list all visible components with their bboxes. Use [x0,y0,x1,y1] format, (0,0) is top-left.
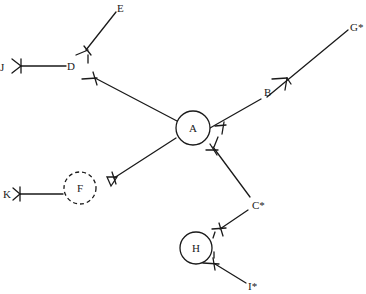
edge-a-b [210,99,261,128]
node-h-label: H [192,242,200,254]
node-h[interactable]: H [180,232,212,264]
node-f-label: F [77,182,83,194]
triangle-mark-f [107,172,117,186]
node-i-label[interactable]: I* [248,280,257,292]
node-d-label[interactable]: D [67,60,75,72]
edge-h-c [220,210,248,229]
edge-a-c [213,147,250,197]
node-a[interactable]: A [176,111,210,145]
edge-d-e [86,12,116,50]
node-j-label[interactable]: J [0,61,5,73]
edge-b-g [267,30,348,97]
node-c-label[interactable]: C* [252,199,265,211]
tick-mark-h-c [212,223,226,238]
node-a-label: A [189,122,197,134]
edge-h-i [215,264,246,283]
crowfoot-mark-k [13,187,20,201]
edge-a-f [114,138,176,178]
crowfoot-mark-j [12,59,21,73]
node-b-label[interactable]: B [264,86,271,98]
crowfoot-mark-b-g [272,78,291,90]
tick-mark-d-a [82,72,97,85]
node-e-label[interactable]: E [117,2,124,14]
node-k-label[interactable]: K [3,188,11,200]
network-diagram: A F H B C* D E G* I* J K [0,0,366,294]
node-g-label[interactable]: G* [350,21,363,33]
node-f[interactable]: F [64,172,96,204]
edge-d-a [95,78,177,121]
